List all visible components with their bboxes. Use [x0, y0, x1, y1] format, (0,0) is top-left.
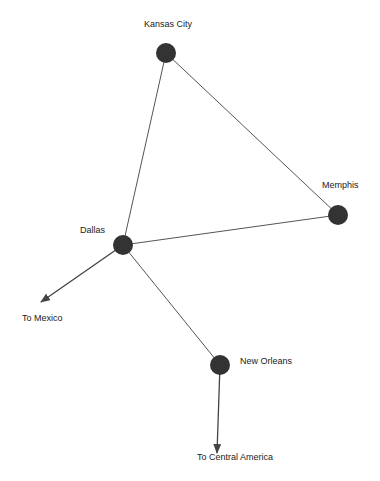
network-diagram: Kansas City Memphis Dallas New Orleans T…: [0, 0, 380, 481]
label-memphis: Memphis: [322, 180, 359, 190]
node-new-orleans: [210, 355, 230, 375]
label-new-orleans: New Orleans: [240, 356, 292, 366]
node-kansas-city: [156, 43, 176, 63]
label-to-central-america: To Central America: [197, 452, 273, 462]
label-dallas: Dallas: [80, 225, 105, 235]
edge-kansas-city-dallas: [123, 53, 166, 245]
node-dallas: [113, 235, 133, 255]
label-to-mexico: To Mexico: [22, 313, 63, 323]
edge-kansas-city-memphis: [166, 53, 338, 215]
arrow-to-central-america: [217, 365, 220, 453]
edge-dallas-memphis: [123, 215, 338, 245]
diagram-graphics: [0, 0, 380, 481]
edge-dallas-new-orleans: [123, 245, 220, 365]
label-kansas-city: Kansas City: [144, 19, 192, 29]
node-memphis: [328, 205, 348, 225]
arrow-to-mexico: [41, 245, 123, 302]
